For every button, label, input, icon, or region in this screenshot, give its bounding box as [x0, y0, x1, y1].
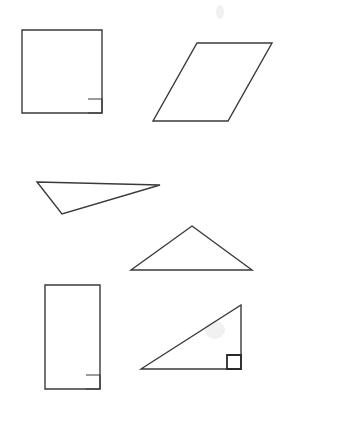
- rectangle-shape: [45, 285, 100, 389]
- scan-artifact: [216, 5, 224, 19]
- acute-triangle-shape: [131, 226, 252, 270]
- rectangle-outline: [45, 285, 100, 389]
- rhombus-outline: [153, 43, 272, 121]
- acute-triangle-outline: [131, 226, 252, 270]
- right-angle-marker-icon: [88, 99, 102, 113]
- right-angle-marker-icon: [227, 355, 241, 369]
- square-outline: [22, 30, 102, 113]
- obtuse-triangle-shape: [37, 182, 160, 214]
- obtuse-triangle-outline: [37, 182, 160, 214]
- shapes-figure: [0, 0, 348, 439]
- square-shape: [22, 30, 102, 113]
- scan-artifact: [205, 321, 225, 339]
- diagram-canvas: [0, 0, 348, 439]
- right-angle-marker-icon: [86, 375, 100, 389]
- right-triangle-outline: [141, 305, 241, 369]
- right-triangle-shape: [141, 305, 241, 369]
- rhombus-shape: [153, 43, 272, 121]
